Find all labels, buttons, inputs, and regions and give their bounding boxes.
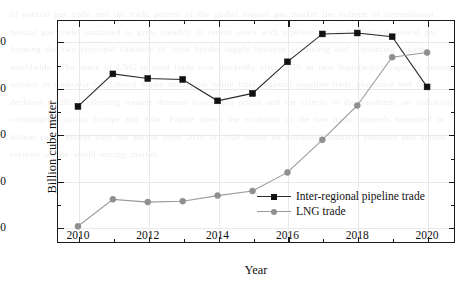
- data-point: [319, 137, 325, 143]
- data-point: [180, 77, 186, 83]
- data-point: [319, 31, 325, 37]
- data-point: [424, 50, 430, 56]
- data-point: [180, 198, 186, 204]
- series-layer: [0, 0, 468, 293]
- data-point: [424, 84, 430, 90]
- data-point: [285, 59, 291, 65]
- data-point: [354, 102, 360, 108]
- chart-figure: of natural gas trade and the trade patte…: [0, 0, 468, 293]
- series-pipeline: [75, 30, 430, 109]
- y-tick-label: 500: [0, 35, 6, 47]
- x-tick-label: 2010: [66, 229, 89, 241]
- y-tick-label: 400: [0, 128, 6, 140]
- legend-item-pipeline: Inter-regional pipeline trade: [257, 189, 425, 204]
- legend-item-lng: LNG trade: [257, 204, 425, 219]
- data-point: [284, 169, 290, 175]
- legend-label-lng: LNG trade: [296, 204, 346, 219]
- x-tick-label: 2014: [206, 229, 229, 241]
- data-point: [110, 196, 116, 202]
- x-tick-label: 2018: [346, 229, 369, 241]
- chart-legend: Inter-regional pipeline trade LNG trade: [253, 186, 431, 222]
- data-point: [250, 91, 256, 97]
- x-tick-label: 2020: [416, 229, 439, 241]
- data-point: [75, 104, 81, 110]
- data-point: [215, 193, 221, 199]
- data-point: [389, 54, 395, 60]
- data-point: [389, 34, 395, 40]
- y-tick-label: 350: [0, 175, 6, 187]
- data-point: [215, 98, 221, 104]
- data-point: [145, 199, 151, 205]
- data-point: [110, 71, 116, 77]
- legend-marker-square-icon: [257, 191, 291, 202]
- data-point: [354, 30, 360, 36]
- data-point: [145, 76, 151, 82]
- x-tick-label: 2016: [276, 229, 299, 241]
- x-tick-label: 2012: [136, 229, 159, 241]
- legend-label-pipeline: Inter-regional pipeline trade: [296, 189, 425, 204]
- y-tick-label: 300: [0, 221, 6, 233]
- legend-marker-circle-icon: [257, 206, 291, 217]
- y-tick-label: 450: [0, 82, 6, 94]
